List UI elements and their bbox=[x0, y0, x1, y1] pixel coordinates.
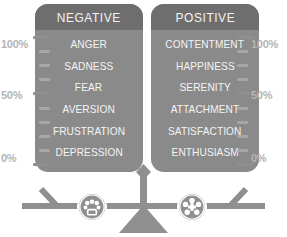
tick-minor bbox=[39, 78, 50, 81]
scale-arm-left bbox=[41, 189, 78, 206]
percent-label-left-0: 0% bbox=[1, 152, 16, 164]
emotion-item: DEPRESSION bbox=[55, 147, 122, 159]
tick-minor bbox=[237, 121, 248, 124]
emotion-item: SATISFACTION bbox=[168, 126, 241, 138]
panel-positive-header: POSITIVE bbox=[151, 4, 259, 30]
emotion-item: SADNESS bbox=[64, 61, 113, 73]
scale-ticks-left bbox=[28, 36, 50, 166]
percent-label-left-50: 50% bbox=[1, 89, 22, 101]
emotion-item: ANGER bbox=[71, 39, 107, 51]
scale-post bbox=[140, 176, 147, 208]
emotion-item: AVERSION bbox=[63, 104, 115, 116]
emotion-item: ENTHUSIASM bbox=[171, 147, 238, 159]
tick-minor bbox=[39, 50, 50, 53]
emotion-balance-infographic: NEGATIVE ANGER SADNESS FEAR AVERSION FRU… bbox=[0, 0, 287, 237]
percent-label-left-100: 100% bbox=[1, 38, 28, 50]
tick-minor bbox=[39, 107, 50, 110]
sad-face-icon bbox=[77, 192, 107, 222]
emotion-item: FRUSTRATION bbox=[53, 126, 125, 138]
percent-label-right-50: 50% bbox=[251, 89, 272, 101]
scale-ticks-right bbox=[237, 36, 259, 166]
panel-negative-header: NEGATIVE bbox=[35, 4, 143, 30]
tick-minor bbox=[237, 107, 248, 110]
panel-negative-title: NEGATIVE bbox=[57, 10, 121, 25]
tick-minor bbox=[39, 121, 50, 124]
panel-negative: NEGATIVE ANGER SADNESS FEAR AVERSION FRU… bbox=[35, 4, 143, 172]
tick-major bbox=[33, 92, 50, 95]
emotion-item: HAPPINESS bbox=[176, 61, 235, 73]
tick-minor bbox=[39, 149, 50, 152]
tick-major bbox=[33, 36, 50, 39]
scale-arm-right bbox=[209, 189, 246, 206]
tick-minor bbox=[39, 64, 50, 67]
tick-minor bbox=[39, 135, 50, 138]
tick-minor bbox=[237, 50, 248, 53]
percent-label-right-100: 100% bbox=[251, 38, 278, 50]
tick-minor bbox=[237, 78, 248, 81]
tick-minor bbox=[237, 64, 248, 67]
tick-minor bbox=[237, 149, 248, 152]
emotion-item: FEAR bbox=[75, 82, 102, 94]
emotion-item: SERENITY bbox=[179, 82, 230, 94]
emotion-item: CONTENTMENT bbox=[166, 39, 245, 51]
scale-beam bbox=[22, 203, 265, 209]
tick-minor bbox=[237, 135, 248, 138]
percent-label-right-0: 0% bbox=[251, 152, 266, 164]
panel-positive-title: POSITIVE bbox=[175, 10, 235, 25]
scale-base bbox=[119, 205, 168, 233]
tick-major bbox=[33, 163, 50, 166]
happy-face-icon bbox=[177, 192, 207, 222]
emotion-item: ATTACHMENT bbox=[171, 104, 240, 116]
negative-emotion-list: ANGER SADNESS FEAR AVERSION FRUSTRATION … bbox=[35, 32, 143, 168]
